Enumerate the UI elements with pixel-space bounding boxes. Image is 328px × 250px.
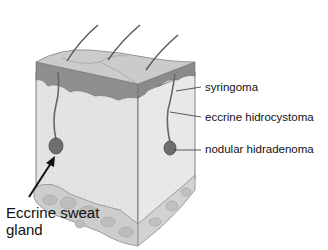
label-eccrine-sweat-gland-line1: Eccrine sweat (6, 204, 99, 221)
label-eccrine-sweat-gland: Eccrine sweat gland (6, 204, 99, 238)
label-eccrine-sweat-gland-line2: gland (6, 221, 99, 238)
label-eccrine-hidrocystoma: eccrine hidrocystoma (205, 112, 314, 124)
skin-diagram: syringoma eccrine hidrocystoma nodular h… (0, 0, 328, 250)
label-nodular-hidradenoma: nodular hidradenoma (205, 144, 314, 156)
label-syringoma: syringoma (205, 82, 258, 94)
